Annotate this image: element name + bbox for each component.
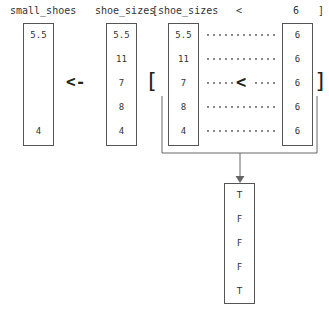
logical-result-vector: T F F F T: [224, 183, 255, 304]
vector-cell: F: [225, 214, 254, 224]
vector-cell: T: [225, 286, 254, 296]
vector-cell: T: [225, 190, 254, 200]
vector-cell: F: [225, 238, 254, 248]
vector-cell: F: [225, 262, 254, 272]
connector-arrow-icon: [0, 0, 329, 317]
